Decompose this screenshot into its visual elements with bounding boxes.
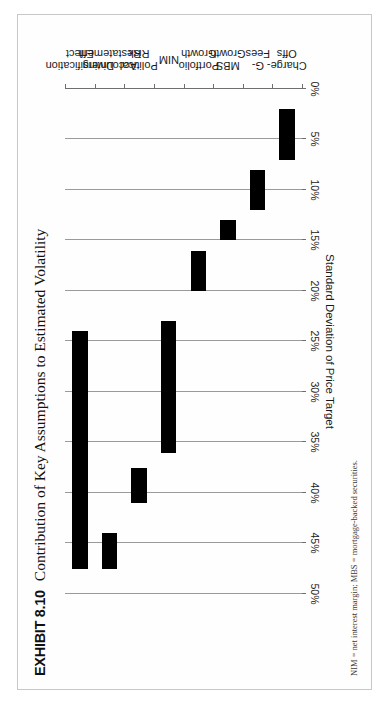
value-axis-tick [302,593,306,594]
bar-charge-offs [279,109,294,160]
exhibit-title-row: EXHIBIT 8.10Contribution of Key Assumpti… [31,36,57,676]
value-axis-tick [302,290,306,291]
category-label-charge-offs: Charge-Offs [272,45,302,75]
category-label-portfolio-growth: Portfolio Growth [184,45,214,75]
category-axis-tick [243,84,244,89]
value-axis-title: Standard Deviation of Price Target [324,89,336,594]
category-label-nim: NIM [154,45,184,75]
gridlines-and-bars [65,89,302,594]
value-axis-tick [302,492,306,493]
category-axis-tick [154,84,155,89]
category-axis-tick [95,84,96,89]
value-axis-tick-label: 35% [309,426,321,460]
exhibit-footnote: NIM = net interest margin; MBS = mortgag… [349,460,359,676]
gridline [65,492,302,493]
gridline [65,341,302,342]
gridline [65,442,302,443]
bar-nim [161,321,176,452]
bar-g-fees [250,170,265,210]
gridline [65,391,302,392]
value-axis-tick [302,543,306,544]
value-axis-tick-label: 20% [309,274,321,308]
value-axis-tick [302,189,306,190]
gridline [65,593,302,594]
category-axis-tick [272,84,273,89]
value-axis-tick [302,240,306,241]
value-axis-tick [302,442,306,443]
bar-political-risk [131,468,146,503]
category-axis-tick [213,84,214,89]
category-axis-tick [184,84,185,89]
value-axis-tick-label: 40% [309,476,321,510]
value-axis-tick-label: 5% [309,123,321,157]
gridline [65,290,302,291]
gridline [65,240,302,241]
gridline [65,189,302,190]
chart-plot-area [65,89,302,594]
category-axis-tick [302,84,303,89]
value-axis-tick-label: 15% [309,224,321,258]
value-axis-tick-label: 45% [309,527,321,561]
value-axis-tick-label: 10% [309,173,321,207]
gridline [65,139,302,140]
category-axis-tick [65,84,66,89]
category-label-g-fees: G-Fees [243,45,273,75]
category-axis-tick [124,84,125,89]
category-label-diversification-effect: Diversification Effect [65,45,95,75]
value-axis-tick-label: 50% [309,577,321,611]
value-axis-tick-label: 0% [309,72,321,106]
value-axis-tick-label: 25% [309,325,321,359]
value-axis-tick-label: 30% [309,375,321,409]
bar-accounting-restatement [102,533,117,568]
gridline [65,543,302,544]
scanned-page: EXHIBIT 8.10Contribution of Key Assumpti… [0,0,389,705]
bar-mbs-growth [220,220,235,240]
bar-diversification-effect [72,331,87,568]
value-axis-tick [302,341,306,342]
bar-portfolio-growth [191,251,206,291]
value-axis-tick [302,139,306,140]
exhibit-landscape-content: EXHIBIT 8.10Contribution of Key Assumpti… [17,14,372,690]
page-title: Contribution of Key Assumptions to Estim… [31,229,48,582]
exhibit-number-label: EXHIBIT 8.10 [32,590,48,676]
value-axis-tick [302,391,306,392]
